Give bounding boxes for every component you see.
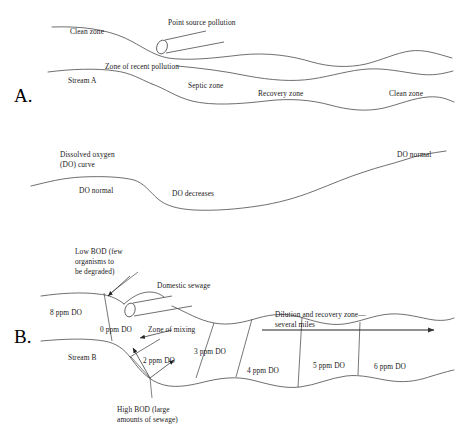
label-stream-a: Stream A <box>68 76 97 85</box>
label-dilution-recovery-line1: Dilution and recovery zone— <box>275 310 366 319</box>
label-do-reading-0ppm: 0 ppm DO <box>100 325 132 334</box>
label-septic-zone: Septic zone <box>188 81 223 90</box>
panel-a-letter: A. <box>14 86 32 105</box>
panel-a-mid-bank-right <box>177 66 453 80</box>
divider-2ppm <box>130 339 160 357</box>
label-do-reading-2ppm: 2 ppm DO <box>143 356 175 365</box>
label-do-curve-title-line2: (DO) curve <box>60 160 95 169</box>
label-do-normal-left: DO normal <box>79 186 113 195</box>
label-zone-of-recent-pollution: Zone of recent pollution <box>105 62 179 71</box>
label-low-bod-line2: organisms to <box>75 257 114 266</box>
panel-b-upper-bank-left <box>41 293 124 304</box>
label-clean-zone-right: Clean zone <box>389 89 423 98</box>
high-bod-leader-stem <box>150 378 152 398</box>
label-high-bod-line2: amounts of sewage) <box>117 415 178 424</box>
label-do-normal-right: DO normal <box>397 150 431 159</box>
low-bod-leader-line <box>112 272 138 292</box>
label-domestic-sewage: Domestic sewage <box>157 281 210 290</box>
pipe-lower-edge <box>166 42 224 53</box>
label-do-reading-4ppm: 4 ppm DO <box>247 366 279 375</box>
panel-a-upper-bank <box>52 27 452 67</box>
panel-b-zone-divider-lines <box>104 293 360 387</box>
panel-b-letter: B. <box>14 327 31 346</box>
label-low-bod-line3: be degraded) <box>75 267 115 276</box>
label-dilution-recovery-line2: several miles <box>275 320 315 329</box>
label-do-reading-3ppm: 3 ppm DO <box>194 347 226 356</box>
panel-b-sewage-inflow-upper <box>124 292 164 304</box>
label-low-bod-line1: Low BOD (few <box>75 247 123 256</box>
panel-b-sewage-pipe <box>123 296 192 318</box>
label-do-curve-title-line1: Dissolved oxygen <box>60 150 115 159</box>
label-do-reading-6ppm: 6 ppm DO <box>374 362 406 371</box>
panel-a-mid-bank-left <box>48 69 152 84</box>
label-do-decreases: DO decreases <box>172 189 214 198</box>
label-point-source-pollution: Point source pollution <box>168 18 235 27</box>
label-recovery-zone: Recovery zone <box>258 89 303 98</box>
pipe-upper-edge <box>165 31 206 40</box>
panel-a-point-source-pipe <box>155 31 224 55</box>
label-do-reading-5ppm: 5 ppm DO <box>313 361 345 370</box>
label-do-reading-8ppm: 8 ppm DO <box>50 308 82 317</box>
label-stream-b: Stream B <box>68 353 97 362</box>
label-high-bod-line1: High BOD (large <box>117 405 170 414</box>
sewage-pipe-upper-edge <box>133 296 172 303</box>
low-bod-leader-arrow <box>108 276 130 296</box>
label-zone-of-mixing: Zone of mixing <box>148 325 195 334</box>
label-clean-zone-left: Clean zone <box>70 27 104 36</box>
stream-pollution-figure: A. Clean zone Point source pollution Zon… <box>0 0 455 432</box>
panel-b-callout-leaders <box>108 272 174 398</box>
